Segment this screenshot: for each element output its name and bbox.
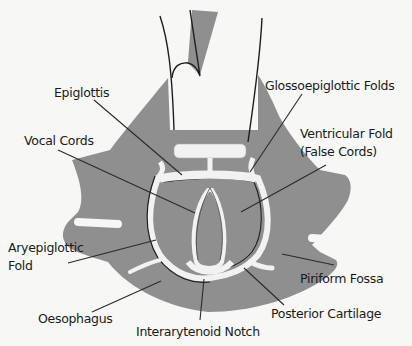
label-aryepiglottic-fold-1: Aryepiglottic: [8, 240, 84, 255]
label-oesophagus: Oesophagus: [38, 311, 113, 326]
label-piriform-fossa: Piriform Fossa: [300, 271, 383, 286]
larynx-diagram: Epiglottis Vocal Cords Glossoepiglottic …: [0, 0, 412, 346]
label-epiglottis: Epiglottis: [54, 85, 109, 100]
label-posterior-cartilage: Posterior Cartilage: [271, 306, 382, 321]
tongue-base: [171, 18, 258, 130]
epiglottis-tip: [174, 144, 246, 158]
label-glossoepiglottic-folds: Glossoepiglottic Folds: [265, 78, 394, 93]
right-notch: [312, 238, 340, 240]
label-interarytenoid-notch: Interarytenoid Notch: [136, 324, 260, 339]
label-ventricular-fold-2: (False Cords): [300, 144, 377, 159]
left-notch: [78, 222, 118, 224]
label-aryepiglottic-fold-2: Fold: [8, 258, 33, 273]
leader-oesophagus: [92, 281, 161, 312]
label-ventricular-fold-1: Ventricular Fold: [300, 126, 393, 141]
label-vocal-cords: Vocal Cords: [24, 133, 94, 148]
